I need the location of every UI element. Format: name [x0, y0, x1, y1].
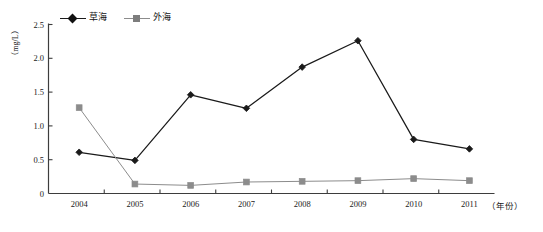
- x-tick-label: 2007: [224, 199, 268, 209]
- x-axis-label: （年份）: [487, 199, 523, 211]
- diamond-marker-icon: [60, 14, 86, 23]
- data-point: [411, 176, 417, 182]
- data-point: [76, 105, 82, 111]
- legend-item-waihai: 外海: [124, 13, 171, 23]
- data-point: [355, 178, 361, 184]
- y-axis-tick-labels: 00.51.01.52.02.5: [14, 0, 44, 232]
- y-tick-label: 1.0: [18, 121, 44, 131]
- data-point: [467, 178, 473, 184]
- data-point: [132, 181, 138, 187]
- data-point: [355, 37, 362, 44]
- series-waihai: [76, 105, 472, 189]
- y-tick-label: 1.5: [18, 87, 44, 97]
- data-point: [410, 136, 417, 143]
- square-marker-icon: [124, 14, 150, 23]
- y-tick-label: 0.5: [18, 155, 44, 165]
- y-tick-label: 2.5: [18, 20, 44, 30]
- data-point: [466, 146, 473, 153]
- x-tick-label: 2006: [169, 199, 213, 209]
- chart-figure: （mg/L） （年份） 00.51.01.52.02.5 20042005200…: [0, 0, 543, 232]
- series-caohai: [76, 37, 473, 163]
- x-tick-label: 2011: [447, 199, 491, 209]
- y-tick-label: 2.0: [18, 53, 44, 63]
- x-tick-label: 2009: [336, 199, 380, 209]
- x-tick-label: 2005: [113, 199, 157, 209]
- legend-label-waihai: 外海: [153, 13, 171, 23]
- data-point: [244, 179, 250, 185]
- plot-area: [0, 0, 543, 232]
- x-tick-label: 2008: [280, 199, 324, 209]
- data-point: [299, 178, 305, 184]
- data-point: [188, 182, 194, 188]
- legend-label-caohai: 草海: [89, 13, 107, 23]
- y-tick-label: 0: [18, 189, 44, 199]
- chart-legend: 草海 外海: [60, 13, 171, 23]
- x-tick-label: 2004: [57, 199, 101, 209]
- data-point: [76, 149, 83, 156]
- x-tick-label: 2010: [392, 199, 436, 209]
- legend-item-caohai: 草海: [60, 13, 107, 23]
